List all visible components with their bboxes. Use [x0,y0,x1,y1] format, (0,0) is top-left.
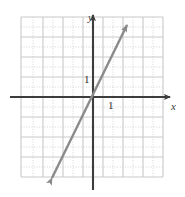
x-unit-tick-label: 1 [108,100,114,111]
coordinate-plane [0,0,185,197]
graph-figure: y x 1 1 [0,0,185,197]
y-axis-label: y [88,12,93,23]
x-axis-label: x [171,101,176,112]
y-unit-tick-label: 1 [84,74,90,85]
